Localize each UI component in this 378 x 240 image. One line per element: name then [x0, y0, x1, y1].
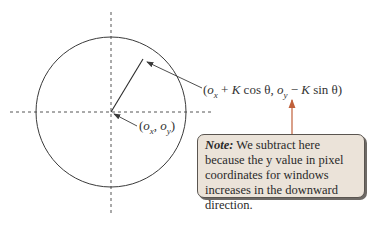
- note-title: Note:: [205, 138, 233, 152]
- radius-line: [111, 59, 143, 112]
- endpoint-pointer-arrow: [147, 62, 202, 88]
- center-label: (ox, oy): [139, 118, 175, 136]
- note-box: Note: We subtract here because the y val…: [197, 134, 365, 198]
- endpoint-label: (ox + K cos θ, oy − K sin θ): [203, 82, 342, 100]
- center-pointer-arrow: [114, 114, 137, 126]
